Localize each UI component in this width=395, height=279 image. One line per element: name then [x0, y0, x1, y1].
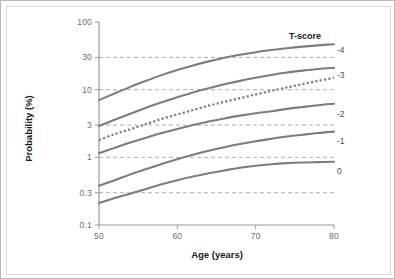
y-tick-label-10: 10 — [59, 85, 92, 95]
x-tick-label-80: 80 — [329, 231, 339, 241]
series-line-tminus3 — [99, 68, 334, 126]
x-axis-label: Age (years) — [99, 249, 335, 260]
y-tick-label-1: 1 — [59, 152, 92, 162]
series-label-minus3: -3 — [337, 70, 345, 80]
x-tick-label-50: 50 — [94, 231, 104, 241]
legend-title: T-score — [289, 31, 321, 41]
series-label-minus2: -2 — [337, 109, 345, 119]
y-tick-label-3: 3 — [59, 120, 92, 130]
y-tick-label-30: 30 — [59, 52, 92, 62]
y-axis-label: Probability (%) — [23, 69, 34, 189]
x-tick-label-70: 70 — [251, 231, 261, 241]
series-line-tminus1 — [99, 132, 334, 186]
y-tick-label-0.1: 0.1 — [59, 220, 92, 230]
axis-ticks-group — [95, 22, 334, 229]
series-label-0: 0 — [337, 166, 342, 176]
series-label-minus1: -1 — [337, 136, 345, 146]
data-series-group — [99, 44, 334, 203]
x-tick-label-60: 60 — [172, 231, 182, 241]
series-line-t0 — [99, 162, 334, 203]
y-tick-label-0.3: 0.3 — [59, 188, 92, 198]
series-line-tminus4 — [99, 44, 334, 100]
y-tick-label-100: 100 — [59, 17, 92, 27]
series-label-minus4: -4 — [337, 45, 345, 55]
axes-group — [99, 22, 334, 225]
